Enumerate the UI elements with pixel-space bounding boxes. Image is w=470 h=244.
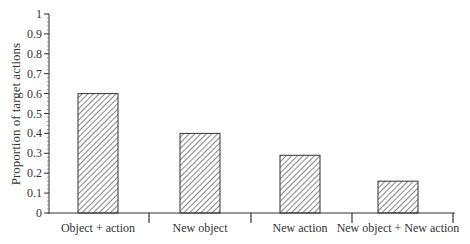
- y-tick-label: 0.6: [27, 87, 42, 101]
- y-tick-label: 0.2: [27, 166, 42, 180]
- y-tick-label: 0.7: [27, 67, 42, 81]
- y-tick-label: 0.8: [27, 47, 42, 61]
- bar: [378, 181, 418, 213]
- bar: [180, 133, 220, 213]
- bar: [78, 94, 118, 213]
- y-tick-label: 0.5: [27, 107, 42, 121]
- x-tick-label: Object + action: [61, 221, 135, 235]
- y-tick-label: 0.9: [27, 27, 42, 41]
- bar: [280, 155, 320, 213]
- x-tick-label: New action: [273, 221, 328, 235]
- y-axis: 00.10.20.30.40.50.60.70.80.91: [27, 7, 49, 220]
- x-tick-label: New object: [173, 221, 229, 235]
- x-axis: Object + actionNew objectNew actionNew o…: [49, 213, 459, 235]
- y-tick-label: 1: [36, 7, 42, 21]
- y-tick-label: 0.4: [27, 126, 42, 140]
- bar-chart: 00.10.20.30.40.50.60.70.80.91 Object + a…: [0, 0, 470, 244]
- bars: [78, 94, 418, 213]
- y-axis-label: Proportion of target actions: [8, 43, 23, 185]
- y-tick-label: 0: [36, 206, 42, 220]
- x-tick-label: New object + New action: [337, 221, 460, 235]
- y-tick-label: 0.1: [27, 186, 42, 200]
- y-tick-label: 0.3: [27, 146, 42, 160]
